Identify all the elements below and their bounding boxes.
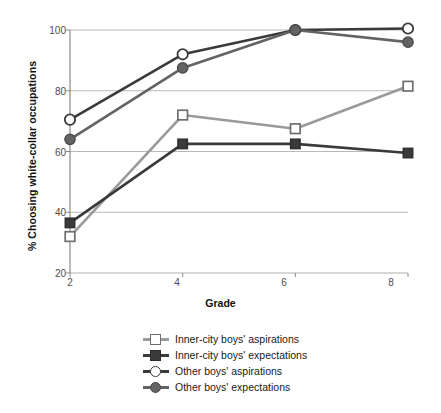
axis-lines [66, 30, 408, 277]
chart-legend: Inner-city boys' aspirations Inner-city … [0, 331, 441, 395]
filled-square-marker-icon [143, 348, 169, 362]
x-tick-2: 2 [67, 277, 73, 288]
x-tick-4: 4 [174, 277, 180, 288]
gridlines [70, 30, 408, 273]
filled-circle-marker-icon [143, 380, 169, 394]
legend-item-other-aspirations[interactable]: Other boys' aspirations [0, 363, 441, 379]
x-axis-label: Grade [0, 297, 441, 309]
legend-item-inner-city-expectations[interactable]: Inner-city boys' expectations [0, 347, 441, 363]
y-tick-60: 60 [40, 146, 66, 157]
series-markers [65, 23, 413, 241]
x-tick-6: 6 [281, 277, 287, 288]
legend-item-other-expectations[interactable]: Other boys' expectations [0, 379, 441, 395]
legend-label: Other boys' expectations [175, 380, 290, 394]
y-tick-20: 20 [40, 268, 66, 279]
y-tick-80: 80 [40, 85, 66, 96]
y-tick-40: 40 [40, 207, 66, 218]
line-chart-figure: % Choosing white-collar occupations 100 … [0, 0, 441, 413]
legend-label: Inner-city boys' expectations [175, 348, 307, 362]
legend-label: Inner-city boys' aspirations [175, 332, 299, 346]
open-circle-marker-icon [143, 364, 169, 378]
x-tick-8: 8 [388, 277, 394, 288]
y-tick-100: 100 [40, 25, 66, 36]
legend-item-inner-city-aspirations[interactable]: Inner-city boys' aspirations [0, 331, 441, 347]
legend-label: Other boys' aspirations [175, 364, 282, 378]
open-square-marker-icon [143, 332, 169, 346]
y-axis-label: % Choosing white-collar occupations [26, 26, 38, 286]
series-lines [70, 28, 408, 236]
